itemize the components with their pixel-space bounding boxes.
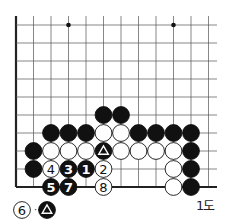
white-stone: 6 (14, 202, 31, 219)
white-stone (78, 143, 95, 160)
white-stone (95, 125, 112, 142)
black-stone (78, 125, 95, 142)
move-number: 8 (99, 180, 107, 195)
move-number: 2 (99, 162, 107, 177)
white-stone (165, 179, 182, 196)
move-number: 6 (18, 203, 26, 218)
white-stone (43, 143, 60, 160)
black-stone: 3 (60, 161, 77, 178)
black-stone: 1 (78, 161, 95, 178)
diagram-caption: 1도 (196, 195, 214, 214)
move-note: 6··· (14, 202, 56, 219)
move-number: 5 (46, 180, 55, 195)
black-stone (183, 143, 200, 160)
move-number: 1 (81, 162, 90, 177)
white-stone (113, 125, 130, 142)
black-stone (183, 161, 200, 178)
white-stone (165, 143, 182, 160)
black-stone (113, 107, 130, 124)
move-number: 3 (64, 162, 73, 177)
black-stone (130, 125, 147, 142)
black-stone: 7 (60, 179, 77, 196)
white-stone (113, 143, 130, 160)
white-stone (60, 143, 77, 160)
white-stone (130, 143, 147, 160)
black-stone (60, 125, 77, 142)
black-stone (95, 143, 112, 160)
black-stone (25, 161, 42, 178)
black-stone (183, 179, 200, 196)
move-number: 4 (47, 162, 55, 177)
white-stone (165, 161, 182, 178)
go-board-diagram: 4312578 6··· (0, 0, 234, 221)
black-stone (165, 125, 182, 142)
black-stone (25, 143, 42, 160)
black-stone: 5 (43, 179, 60, 196)
white-stone: 4 (43, 161, 60, 178)
black-stone (183, 125, 200, 142)
move-number: 7 (64, 180, 73, 195)
black-stone (95, 107, 112, 124)
white-stone (148, 143, 165, 160)
white-stone: 8 (95, 179, 112, 196)
black-stone (39, 202, 56, 219)
star-point (66, 23, 71, 28)
black-stone (148, 125, 165, 142)
white-stone: 2 (95, 161, 112, 178)
black-stone (43, 125, 60, 142)
star-point (171, 23, 176, 28)
